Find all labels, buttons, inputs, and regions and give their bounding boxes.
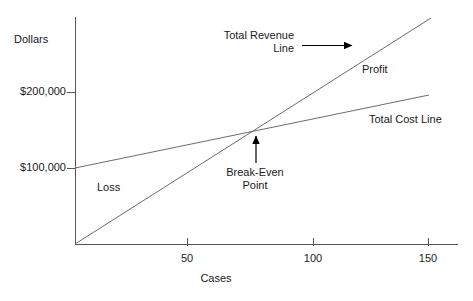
total-revenue-line-label: Total Revenue Line	[198, 29, 294, 55]
y-axis-tick-label-200000: $200,000	[8, 85, 66, 98]
x-axis-tick-label-100: 100	[293, 252, 333, 265]
x-axis-tick-label-150: 150	[408, 252, 448, 265]
total-cost-line-label: Total Cost Line	[369, 113, 463, 126]
x-axis-tick-label-50: 50	[167, 252, 207, 265]
break-even-chart: Dollars $200,000 $100,000 50 100 150 Cas…	[0, 0, 473, 301]
x-axis-title: Cases	[186, 272, 246, 285]
profit-region-label: Profit	[362, 63, 410, 76]
total-cost-line	[75, 95, 429, 168]
y-axis-title: Dollars	[14, 33, 70, 46]
y-axis-tick-label-100000: $100,000	[8, 161, 66, 174]
break-even-point-label: Break-Even Point	[215, 166, 295, 192]
loss-region-label: Loss	[97, 181, 135, 194]
